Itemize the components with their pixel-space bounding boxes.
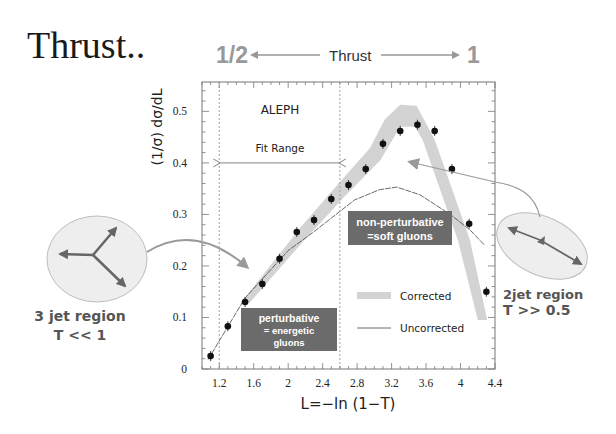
data-point — [345, 182, 352, 189]
data-point — [397, 128, 404, 135]
x-tick-label: 2 — [285, 377, 291, 389]
chart: ALEPH Fit Range non-perturbative =soft g… — [149, 82, 502, 413]
x-tick-label: 1.6 — [247, 377, 262, 389]
y-tick-label: 0 — [181, 363, 187, 375]
two-jet-diagram — [486, 199, 598, 292]
legend-corrected-label: Corrected — [400, 290, 451, 302]
three-jet-condition: T << 1 — [54, 327, 107, 343]
thrust-max-value: 1 — [467, 42, 480, 68]
data-point — [431, 128, 438, 135]
thrust-min-value: 1/2 — [216, 42, 248, 68]
perturbative-line3: gluons — [273, 337, 304, 348]
axis-ticks: 1.21.622.42.83.23.644.400.10.20.30.40.5 — [173, 82, 503, 389]
data-point — [414, 121, 421, 128]
jet-arrow-icon — [60, 254, 93, 255]
data-point — [242, 299, 249, 306]
y-tick-label: 0.5 — [173, 105, 188, 117]
x-tick-label: 4.4 — [488, 377, 503, 389]
connector-arrow-icon — [410, 162, 540, 217]
y-tick-label: 0.4 — [173, 157, 188, 169]
experiment-label: ALEPH — [261, 103, 300, 117]
x-tick-label: 2.4 — [315, 377, 330, 389]
data-point — [362, 166, 369, 173]
thrust-scale-label: Thrust — [329, 47, 372, 64]
non-perturbative-line1: non-perturbative — [356, 216, 443, 228]
three-jet-label: 3 jet region — [34, 308, 125, 324]
x-tick-label: 2.8 — [350, 377, 365, 389]
slide-title: Thrust.. — [27, 24, 145, 66]
three-jet-diagram — [47, 216, 147, 302]
data-point — [380, 141, 387, 148]
two-jet-condition: T >> 0.5 — [503, 302, 571, 318]
thrust-scale: 1/2 Thrust 1 — [216, 42, 480, 68]
two-jet-label: 2jet region — [503, 287, 583, 302]
connector-arrow-icon — [147, 240, 247, 267]
y-tick-label: 0.2 — [173, 260, 188, 272]
data-point — [311, 217, 318, 224]
data-point — [466, 220, 473, 227]
legend-band-swatch — [357, 292, 391, 299]
x-axis-label: L=−ln (1−T) — [301, 395, 396, 413]
y-tick-label: 0.1 — [173, 311, 188, 323]
legend-uncorrected-label: Uncorrected — [400, 322, 464, 334]
x-tick-label: 1.2 — [212, 377, 227, 389]
slide: Thrust.. 1/2 Thrust 1 ALEPH Fit Range no… — [0, 0, 616, 434]
fit-range-label: Fit Range — [256, 142, 305, 154]
perturbative-box: perturbative = energetic gluons — [241, 308, 337, 351]
data-point — [207, 353, 214, 360]
data-point — [328, 196, 335, 203]
non-perturbative-box: non-perturbative =soft gluons — [348, 211, 452, 245]
perturbative-line2: = energetic — [264, 325, 314, 336]
x-tick-label: 3.2 — [384, 377, 399, 389]
data-point — [293, 229, 300, 236]
data-point — [276, 255, 283, 262]
perturbative-line1: perturbative — [259, 312, 320, 324]
non-perturbative-line2: =soft gluons — [367, 230, 433, 242]
legend: Corrected Uncorrected — [357, 290, 464, 334]
slide-canvas: Thrust.. 1/2 Thrust 1 ALEPH Fit Range no… — [0, 0, 616, 434]
x-tick-label: 4 — [458, 377, 464, 389]
data-point — [483, 288, 490, 295]
data-point — [259, 281, 266, 288]
x-tick-label: 3.6 — [419, 377, 434, 389]
y-axis-label: (1/σ) dσ/dL — [149, 88, 165, 165]
y-tick-label: 0.3 — [173, 208, 188, 220]
data-point — [225, 323, 232, 330]
